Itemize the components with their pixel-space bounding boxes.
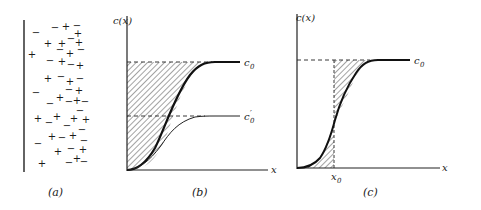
svg-text:0: 0: [250, 63, 255, 71]
figure: −−+−+++−++−+−−+−++−+−−−+−+−+−−+−++−++−+−…: [0, 0, 481, 210]
plus-charge: +: [69, 130, 77, 141]
svg-text:0: 0: [420, 61, 425, 69]
minus-charge: −: [56, 44, 64, 55]
minus-charge: −: [32, 27, 40, 38]
plus-charge: +: [34, 113, 42, 124]
panel-a: −−+−+++−++−+−−+−++−+−−−+−+−+−−+−++−++−+−…: [24, 20, 90, 199]
curve-c0-c: [297, 60, 410, 168]
minus-charge: −: [77, 44, 85, 55]
minus-charge: −: [51, 22, 59, 33]
y-label-c: c(x): [296, 12, 315, 23]
minus-charge: −: [65, 84, 73, 95]
plus-charge: +: [44, 38, 52, 49]
svg-text:0: 0: [250, 117, 255, 125]
plus-charge: +: [48, 131, 56, 142]
minus-charge: −: [57, 71, 65, 82]
y-label-b: c(x): [113, 15, 132, 26]
plus-charge: +: [56, 92, 64, 103]
x-label-b: x: [271, 164, 277, 175]
svg-text:0: 0: [337, 177, 342, 185]
svg-text:′: ′: [250, 108, 252, 117]
plus-charge: +: [76, 60, 84, 71]
plus-charge: +: [54, 146, 62, 157]
minus-charge: −: [46, 98, 54, 109]
plus-charge: +: [58, 56, 66, 67]
panel-c: c(x) x c 0 x 0 (c): [296, 12, 448, 199]
minus-charge: −: [67, 59, 75, 70]
caption-b: (b): [192, 186, 208, 199]
minus-charge: −: [78, 124, 86, 135]
minus-charge: −: [76, 73, 84, 84]
minus-charge: −: [32, 87, 40, 98]
minus-charge: −: [46, 55, 54, 66]
charge-distribution: −−+−+++−++−+−−+−++−+−−−+−+−+−−+−++−++−+−…: [28, 20, 90, 169]
panel-b: c(x) x c 0 c 0 ′ (b): [113, 15, 277, 199]
minus-charge: −: [34, 138, 42, 149]
minus-charge: −: [80, 156, 88, 167]
plus-charge: +: [53, 111, 61, 122]
caption-c: (c): [363, 186, 378, 199]
x-label-c: x: [442, 162, 448, 173]
plus-charge: +: [38, 158, 46, 169]
caption-a: (a): [48, 186, 63, 199]
minus-charge: −: [58, 132, 66, 143]
plus-charge: +: [66, 48, 74, 59]
plus-charge: +: [28, 49, 36, 60]
plus-charge: +: [62, 21, 70, 32]
plus-charge: +: [44, 73, 52, 84]
